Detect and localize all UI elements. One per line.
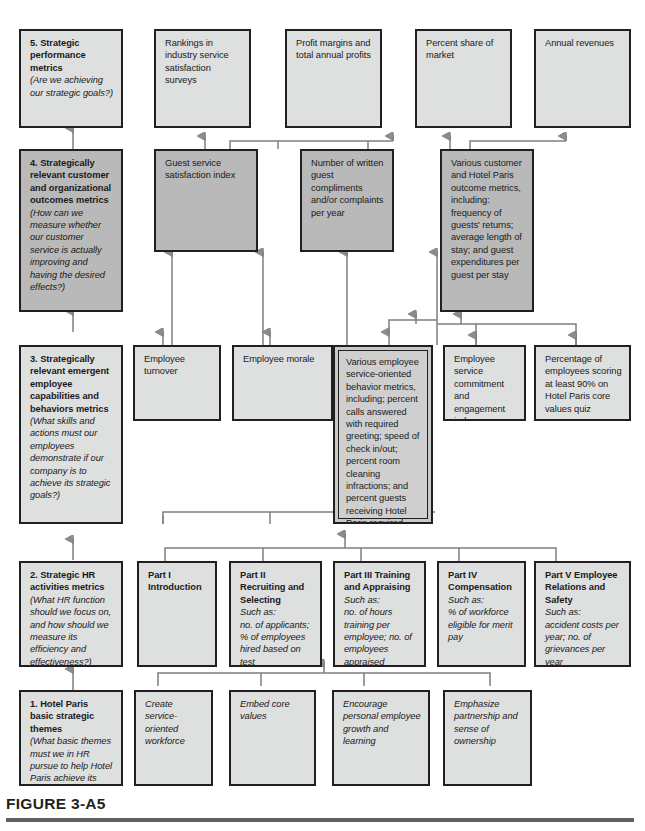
row5-metric-3: Annual revenues xyxy=(534,29,631,128)
row1-theme-3-text: Emphasize partnership and sense of owner… xyxy=(454,698,523,748)
row1-theme-2-text: Encourage personal employee growth and l… xyxy=(343,698,421,748)
row1-theme-3: Emphasize partnership and sense of owner… xyxy=(443,690,532,786)
row1-theme-1: Embed core values xyxy=(229,690,316,786)
row2-part-2: Part III Training and Appraising Such as… xyxy=(333,561,426,667)
row4-metric-1: Number of written guest compliments and/… xyxy=(300,149,394,252)
row2-part-3-title: Part IV Compensation xyxy=(448,569,517,594)
level-3-label-box: 3. Strategically relevant emergent emplo… xyxy=(19,345,123,524)
row1-theme-0-text: Create service-oriented workforce xyxy=(145,698,204,748)
row2-part-2-suchas: Such as: xyxy=(344,594,417,606)
row2-part-4-title: Part V Employee Relations and Safety xyxy=(545,569,622,606)
row2-part-4-examples: accident costs per year; no. of grievanc… xyxy=(545,619,622,667)
row4-metric-2-text: Various customer and Hotel Paris outcome… xyxy=(451,157,525,281)
row4-metric-1-text: Number of written guest compliments and/… xyxy=(311,157,385,219)
level-3-heading-text: Strategically relevant emergent employee… xyxy=(30,354,109,414)
level-4-number: 4. xyxy=(30,158,38,168)
row3-metric-1: Employee morale xyxy=(232,345,333,421)
level-1-heading-text: Hotel Paris basic strategic themes xyxy=(30,699,94,734)
row5-metric-0: Rankings in industry service satisfactio… xyxy=(154,29,251,128)
level-2-heading-text: Strategic HR activities metrics xyxy=(30,570,104,592)
level-1-label-box: 1. Hotel Paris basic strategic themes (W… xyxy=(19,690,123,786)
row3-metric-3: Employee service commitment and engageme… xyxy=(443,345,526,421)
row5-metric-2-text: Percent share of market xyxy=(426,37,503,62)
row3-metric-4: Percentage of employees scoring at least… xyxy=(534,345,631,421)
level-2-number: 2. xyxy=(30,570,38,580)
level-4-question: (How can we measure whether our customer… xyxy=(30,207,114,294)
row2-part-1: Part II Recruiting and Selecting Such as… xyxy=(229,561,322,667)
row2-part-1-title: Part II Recruiting and Selecting xyxy=(240,569,313,606)
level-5-heading-text: Strategic performance metrics xyxy=(30,38,86,73)
row2-part-4-suchas: Such as: xyxy=(545,606,622,618)
row5-metric-1: Profit margins and total annual profits xyxy=(285,29,382,128)
row2-part-3: Part IV Compensation Such as: % of workf… xyxy=(437,561,526,667)
row5-metric-0-text: Rankings in industry service satisfactio… xyxy=(165,37,242,87)
row3-metric-0: Employee turnover xyxy=(133,345,221,421)
row5-metric-3-text: Annual revenues xyxy=(545,37,622,49)
row1-theme-2: Encourage personal employee growth and l… xyxy=(332,690,430,786)
row3-metric-4-text: Percentage of employees scoring at least… xyxy=(545,353,622,415)
level-5-label-box: 5. Strategic performance metrics (Are we… xyxy=(19,29,123,128)
level-2-label-box: 2. Strategic HR activities metrics (What… xyxy=(19,561,123,667)
row2-part-3-suchas: Such as: xyxy=(448,594,517,606)
level-5-heading: 5. Strategic performance metrics xyxy=(30,37,114,74)
row3-metric-2-text: Various employee service-oriented behavi… xyxy=(346,356,422,524)
row1-theme-1-text: Embed core values xyxy=(240,698,307,723)
level-1-number: 1. xyxy=(30,699,38,709)
level-2-question: (What HR function should we focus on, an… xyxy=(30,594,114,667)
row2-part-3-examples: % of workforce eligible for merit pay xyxy=(448,606,517,643)
level-3-number: 3. xyxy=(30,354,38,364)
row5-metric-1-text: Profit margins and total annual profits xyxy=(296,37,373,62)
level-4-label-box: 4. Strategically relevant customer and o… xyxy=(19,149,123,312)
row2-part-0: Part I Introduction xyxy=(137,561,217,667)
figure-caption-rule xyxy=(6,818,634,822)
level-5-question: (Are we achieving our strategic goals?) xyxy=(30,74,114,99)
row4-metric-0-text: Guest service satisfaction index xyxy=(165,157,249,182)
level-4-heading-text: Strategically relevant customer and orga… xyxy=(30,158,111,205)
row2-part-4: Part V Employee Relations and Safety Suc… xyxy=(534,561,631,667)
row2-part-0-title: Part I Introduction xyxy=(148,569,208,594)
row4-metric-2: Various customer and Hotel Paris outcome… xyxy=(440,149,534,312)
row3-metric-3-text: Employee service commitment and engageme… xyxy=(454,353,517,421)
row4-metric-0: Guest service satisfaction index xyxy=(154,149,258,252)
level-5-number: 5. xyxy=(30,38,38,48)
figure-caption: FIGURE 3-A5 xyxy=(6,795,106,813)
row3-metric-1-text: Employee morale xyxy=(243,353,324,365)
level-3-question: (What skills and actions must our employ… xyxy=(30,415,114,502)
figure-canvas: 5. Strategic performance metrics (Are we… xyxy=(0,0,645,831)
level-1-question: (What basic themes must we in HR pursue … xyxy=(30,735,114,786)
row3-metric-2: Various employee service-oriented behavi… xyxy=(333,345,433,524)
row3-metric-0-text: Employee turnover xyxy=(144,353,212,378)
row2-part-1-suchas: Such as: xyxy=(240,606,313,618)
row1-theme-0: Create service-oriented workforce xyxy=(134,690,213,786)
row2-part-1-examples: no. of applicants; % of employees hired … xyxy=(240,619,313,667)
row2-part-2-examples: no. of hours training per employee; no. … xyxy=(344,606,417,667)
row5-metric-2: Percent share of market xyxy=(415,29,512,128)
row2-part-2-title: Part III Training and Appraising xyxy=(344,569,417,594)
